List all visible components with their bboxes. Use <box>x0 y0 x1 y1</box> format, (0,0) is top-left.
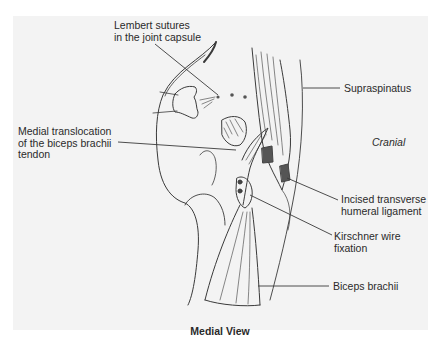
biceps-muscle <box>205 205 260 306</box>
label-line: fixation <box>334 243 401 255</box>
label-lembert-sutures: Lembert sutures in the joint capsule <box>114 20 201 43</box>
label-line: Lembert sutures <box>114 20 201 32</box>
label-line: tendon <box>18 149 111 161</box>
label-medial-translocation: Medial translocation of the biceps brach… <box>18 126 111 161</box>
figure-caption: Medial View <box>0 325 440 337</box>
suture-dots-icon <box>216 93 246 99</box>
capsule-flap <box>173 86 198 118</box>
label-line: Medial translocation <box>18 126 111 138</box>
label-incised-transverse-ligament: Incised transverse humeral ligament <box>341 194 426 217</box>
label-biceps-brachii: Biceps brachii <box>333 281 398 293</box>
humerus-outline <box>156 42 216 305</box>
label-line: Incised transverse <box>341 194 426 206</box>
label-line: Biceps brachii <box>333 281 398 293</box>
biceps-tendon <box>242 128 268 205</box>
label-line: humeral ligament <box>341 206 426 218</box>
label-supraspinatus: Supraspinatus <box>344 83 411 95</box>
label-cranial: Cranial <box>372 137 405 149</box>
label-line: Kirschner wire <box>334 231 401 243</box>
shoulder-anatomy-illustration <box>0 0 440 345</box>
label-line: Supraspinatus <box>344 83 411 95</box>
label-kirschner-wire: Kirschner wire fixation <box>334 231 401 254</box>
label-line: in the joint capsule <box>114 32 201 44</box>
